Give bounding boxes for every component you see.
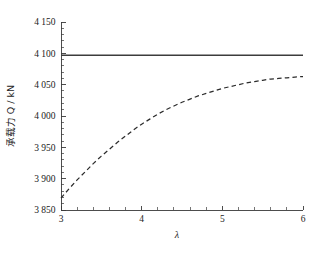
y-tick-label: 3 850 [34, 205, 56, 215]
data-series-group [61, 55, 303, 198]
axis-group [61, 22, 303, 210]
y-axis-title: 承载力 Q / kN [5, 85, 16, 147]
y-tick-label: 4 000 [34, 111, 56, 121]
chart-canvas: 3 8503 9003 9504 0004 0504 1004 1503456 … [0, 0, 309, 259]
y-tick-label: 4 100 [34, 49, 56, 59]
y-tick-label: 3 900 [34, 174, 56, 184]
x-axis-title: λ [174, 229, 180, 240]
series-line-computed-capacity [61, 77, 303, 199]
tick-labels-group: 3 8503 9003 9504 0004 0504 1004 1503456 [34, 17, 306, 223]
y-tick-label: 4 150 [34, 17, 56, 27]
tick-marks-group [61, 22, 303, 210]
x-tick-label: 3 [59, 214, 64, 224]
chart-figure: 3 8503 9003 9504 0004 0504 1004 1503456 … [0, 0, 309, 259]
x-tick-label: 4 [139, 214, 144, 224]
x-tick-label: 6 [301, 214, 306, 224]
axis-titles-group: λ承载力 Q / kN [5, 85, 180, 240]
y-tick-label: 4 050 [34, 80, 56, 90]
x-tick-label: 5 [220, 214, 225, 224]
y-tick-label: 3 950 [34, 143, 56, 153]
